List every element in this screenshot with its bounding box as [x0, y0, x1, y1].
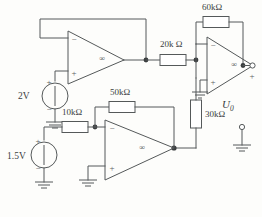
- r1-left-wire: [44, 127, 62, 140]
- opamp-U2-plus-sign: +: [109, 163, 114, 173]
- u2-plus-gnd-wire: [88, 166, 105, 180]
- output-plus-sign: +: [249, 71, 254, 81]
- source-2v-plus-sign: +: [46, 77, 51, 87]
- resistor-50k-label: 50kΩ: [110, 87, 131, 97]
- output-terminal-negative[interactable]: [239, 124, 244, 129]
- u3-plus-gnd-wire: [200, 80, 207, 92]
- resistor-10k: 10kΩ: [62, 107, 88, 132]
- output-terminal-positive[interactable]: [250, 63, 255, 68]
- resistor-60k: 60kΩ: [202, 2, 229, 27]
- voltage-source-1p5v: + − 1.5V: [7, 136, 57, 188]
- opamp-U3-gain-symbol: ∞: [231, 60, 237, 69]
- opamp-U1-minus-sign: −: [71, 34, 76, 44]
- resistor-10k-label: 10kΩ: [62, 107, 83, 117]
- ground-symbol-output: [233, 145, 251, 151]
- resistor-30k-label: 30kΩ: [205, 109, 226, 119]
- ground-symbol-1p5v: [35, 182, 53, 188]
- circuit-diagram: − + ∞ + − 2V 20k Ω: [0, 0, 262, 217]
- resistor-30k-body: [191, 100, 202, 128]
- resistor-20k-body: [160, 55, 186, 66]
- opamp-U2-minus-sign: −: [109, 123, 114, 133]
- opamp-U1-gain-symbol: ∞: [99, 54, 105, 63]
- opamp-U3-minus-sign: −: [210, 40, 215, 50]
- opamp-U1: − + ∞: [68, 31, 124, 84]
- source-1p5v-minus-sign: −: [35, 163, 40, 173]
- ground-symbol-u3: [192, 92, 208, 98]
- resistor-10k-body: [62, 122, 88, 133]
- voltage-source-2v: + − 2V: [18, 77, 68, 128]
- resistor-20k: 20k Ω: [160, 39, 186, 65]
- source-1p5v-plus-sign: +: [35, 136, 40, 146]
- resistor-60k-body: [203, 17, 229, 28]
- source-2v-minus-sign: −: [46, 104, 51, 114]
- resistor-20k-label: 20k Ω: [160, 39, 183, 49]
- schematic-canvas: − + ∞ + − 2V 20k Ω: [0, 0, 262, 217]
- u1-feedback-wire: [40, 19, 146, 60]
- opamp-U3-plus-sign: +: [210, 77, 215, 87]
- opamp-U2-gain-symbol: ∞: [139, 143, 145, 152]
- resistor-60k-label: 60kΩ: [202, 2, 223, 12]
- opamp-U2: − + ∞: [105, 120, 174, 180]
- resistor-30k: 30kΩ: [191, 100, 226, 128]
- r4-left-wire: [196, 22, 203, 44]
- u1-plus-input-wire: [55, 71, 68, 81]
- source-1p5v-label: 1.5V: [7, 151, 26, 161]
- ground-symbol-u2: [79, 180, 97, 186]
- resistor-50k: 50kΩ: [109, 87, 135, 112]
- r2-left-wire: [95, 107, 109, 127]
- source-2v-label: 2V: [18, 91, 30, 101]
- resistor-50k-body: [109, 102, 135, 113]
- opamp-U1-plus-sign: +: [71, 68, 76, 78]
